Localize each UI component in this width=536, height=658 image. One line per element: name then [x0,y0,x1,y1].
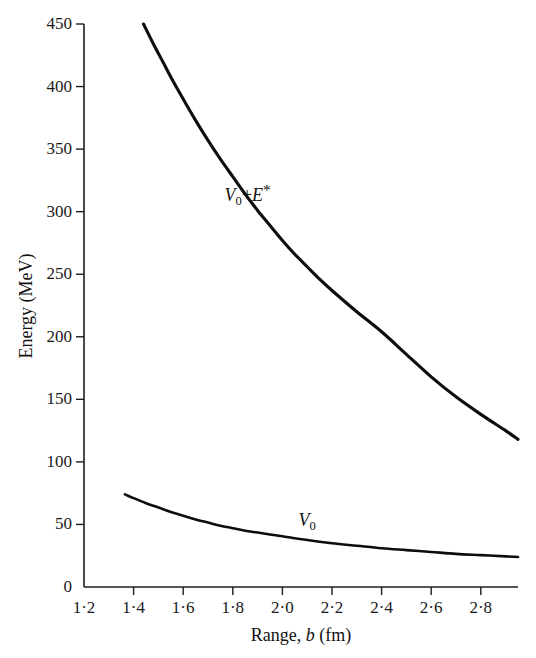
y-tick-label: 200 [47,327,73,347]
label-upper-plus: + [242,186,252,206]
curve-v0-plus-estar [144,24,518,439]
x-tick-label: 2·0 [271,598,294,618]
label-lower-v-subscript: 0 [310,519,316,533]
curves-group [125,24,518,557]
label-upper-e: E [252,186,263,206]
x-tick-label: 2·4 [370,598,393,618]
y-tick-label: 450 [47,14,73,34]
plot-canvas [0,0,536,658]
x-tick-label: 1·2 [73,598,96,618]
x-axis-title: Range, b (fm) [251,625,351,646]
x-tick-label: 2·2 [321,598,344,618]
label-lower-v: V [299,510,310,530]
y-tick-label: 250 [47,264,73,284]
y-tick-label: 350 [47,139,73,159]
x-tick-marks [134,587,481,595]
y-tick-label: 100 [47,452,73,472]
y-axis-title: Energy (MeV) [16,253,37,358]
x-tick-label: 1·4 [122,598,145,618]
y-tick-marks [76,24,84,524]
curve-v0 [125,494,518,557]
curve-label-v0-plus-estar: V0+E* [225,181,271,209]
y-tick-label: 0 [64,577,73,597]
x-axis-title-suffix: (fm) [315,625,351,645]
x-tick-label: 1·6 [172,598,195,618]
x-tick-label: 2·6 [420,598,443,618]
x-axis-title-prefix: Range, [251,625,306,645]
x-tick-label: 1·8 [221,598,244,618]
x-tick-label: 2·8 [469,598,492,618]
label-upper-v: V [225,186,236,206]
axes-group [76,24,518,595]
y-tick-label: 50 [55,514,72,534]
label-upper-e-superscript: * [263,181,271,198]
y-tick-label: 150 [47,389,73,409]
y-tick-label: 300 [47,202,73,222]
y-tick-label: 400 [47,77,73,97]
curve-label-v0: V0 [299,510,316,534]
energy-vs-range-chart: 050100150200250300350400450 1·21·41·61·8… [0,0,536,658]
x-axis-title-variable: b [306,625,315,645]
